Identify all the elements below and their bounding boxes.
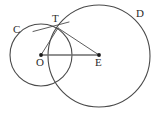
label-circle-c: C	[13, 24, 20, 35]
label-circle-d: D	[136, 8, 144, 19]
tangent-line-at-t	[33, 22, 69, 32]
label-point-o: O	[36, 57, 44, 68]
segment-t-e	[58, 28, 99, 55]
label-point-e: E	[95, 57, 102, 68]
geometry-figure: C D T O E	[0, 0, 159, 117]
segment-o-t	[41, 28, 58, 55]
label-point-t: T	[52, 13, 59, 24]
